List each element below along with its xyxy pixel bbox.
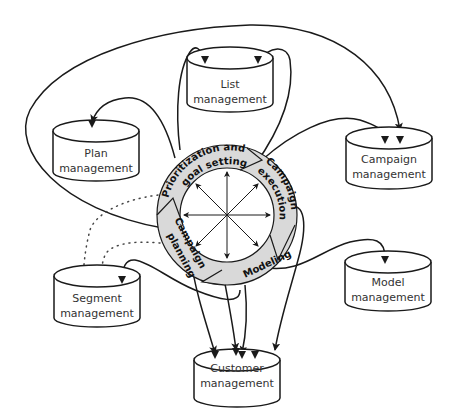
store-label-line1: List [220,78,240,91]
connector-modeling-to-customer [242,285,246,353]
store-label-line1: Customer [210,362,264,375]
store-model-management[interactable]: Model management [345,251,431,311]
store-label-line1: Segment [72,292,122,305]
store-campaign-management[interactable]: Campaign management [346,127,432,189]
store-customer-management[interactable]: Customer management [194,349,280,407]
store-plan-management[interactable]: Plan management [53,120,139,181]
store-label-line2: management [200,377,274,390]
store-label-line2: management [193,93,267,106]
store-label-line1: Campaign [361,153,417,166]
inner-arrow-star [184,172,270,258]
store-label-line2: management [60,307,134,320]
store-label-line1: Plan [84,147,107,160]
store-label-line2: management [351,291,425,304]
cycle-ring: Prioritization and goal setting Campaign… [157,141,300,285]
store-label-line2: management [352,168,426,181]
store-label-line2: management [59,162,133,175]
store-segment-management[interactable]: Segment management [54,265,140,327]
diagram-canvas: Prioritization and goal setting Campaign… [0,0,457,415]
store-label-line1: Model [371,276,404,289]
